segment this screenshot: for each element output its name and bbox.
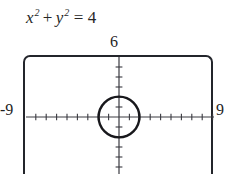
equation-x: x — [26, 8, 34, 27]
plot-canvas — [25, 57, 215, 174]
window-label-xmax: 9 — [216, 101, 224, 119]
equation-result: 4 — [88, 8, 97, 27]
equation-y: y — [56, 8, 64, 27]
equation-equals: = — [74, 8, 84, 27]
equation-plus: + — [43, 8, 53, 27]
window-label-xmin: -9 — [0, 101, 13, 119]
equation-x-exponent: 2 — [34, 7, 39, 18]
axis-ticks — [36, 67, 213, 174]
window-label-ymax: 6 — [110, 33, 118, 51]
equation-y-exponent: 2 — [64, 7, 69, 18]
graph-figure: x2+y2=4 6 -9 9 — [0, 0, 240, 174]
equation-caption: x2+y2=4 — [26, 8, 97, 28]
graphing-viewport — [23, 55, 213, 174]
